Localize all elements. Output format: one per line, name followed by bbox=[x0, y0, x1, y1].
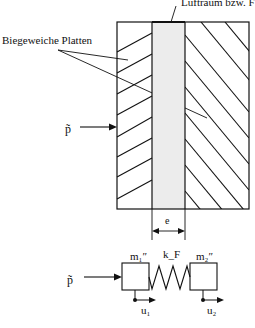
mass1-box bbox=[122, 263, 149, 290]
plates-label: Biegeweiche Platten bbox=[2, 34, 93, 46]
displacement-label-1: u₁ bbox=[141, 304, 151, 316]
dimension-arrow-left-icon bbox=[152, 228, 159, 234]
displacement-arrow-2-icon bbox=[201, 290, 224, 303]
mass1-label: m₁″ bbox=[130, 250, 147, 262]
mass2-box bbox=[190, 263, 217, 290]
left-plate-hatch bbox=[117, 33, 152, 199]
pressure-arrow-bottom-icon bbox=[84, 274, 122, 281]
displacement-label-2: u₂ bbox=[207, 304, 217, 316]
gap-width-label: e bbox=[165, 215, 170, 226]
plate-spring-mass-diagram: Luftraum bzw. F Biegeweiche Platten bbox=[0, 0, 255, 328]
air-gap-label: Luftraum bzw. F bbox=[181, 0, 255, 8]
right-plate-hatch bbox=[185, 22, 255, 268]
spring-label: k_F bbox=[163, 248, 180, 260]
pressure-label-bottom: p̃ bbox=[67, 273, 73, 287]
displacement-arrow-1-icon bbox=[133, 290, 156, 303]
mass2-label: m₂″ bbox=[196, 250, 213, 262]
dimension-arrow-right-icon bbox=[178, 228, 185, 234]
air-gap-region bbox=[152, 22, 185, 209]
pressure-arrow-top-icon bbox=[80, 124, 117, 131]
spring-icon bbox=[149, 266, 190, 289]
pressure-label-top: p̃ bbox=[65, 122, 71, 136]
